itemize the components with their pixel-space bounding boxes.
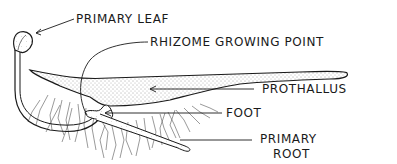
label-foot: FOOT: [226, 107, 262, 120]
label-primary-root-line2: ROOT: [273, 148, 310, 161]
primary-root: [96, 114, 190, 151]
primary-leaf-blade: [14, 32, 33, 53]
label-prothallus: PROTHALLUS: [262, 83, 347, 96]
label-primary-leaf: PRIMARY LEAF: [76, 13, 169, 26]
label-rhizome-growing-point: RHIZOME GROWING POINT: [150, 36, 324, 49]
label-primary-root: PRIMARY: [260, 133, 317, 146]
